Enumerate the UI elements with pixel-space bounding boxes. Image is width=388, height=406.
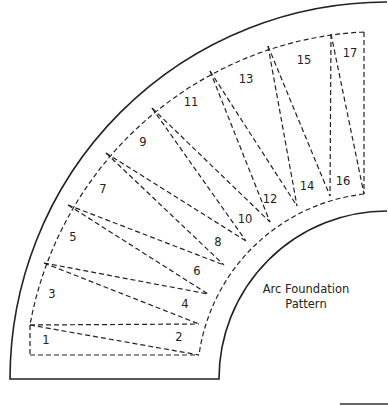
piece-label-9: 9 (139, 135, 146, 149)
seam-line (30, 324, 199, 325)
piece-label-12: 12 (263, 192, 278, 206)
seam-line (152, 108, 246, 241)
piece-label-17: 17 (343, 46, 358, 60)
seam-line (268, 46, 297, 206)
piece-label-2: 2 (175, 330, 182, 344)
piece-label-4: 4 (181, 297, 188, 311)
piece-label-7: 7 (99, 182, 106, 196)
piece-label-14: 14 (300, 179, 315, 193)
seam-line (152, 108, 270, 222)
seam-line (106, 153, 224, 265)
piece-label-13: 13 (239, 72, 254, 86)
piece-label-16: 16 (336, 174, 351, 188)
piece-label-5: 5 (69, 230, 76, 244)
seam-line (30, 325, 199, 355)
title-line-1: Arc Foundation (246, 282, 366, 297)
piece-label-10: 10 (238, 212, 253, 226)
piece-label-6: 6 (193, 264, 200, 278)
piece-label-3: 3 (48, 287, 55, 301)
seam-line (68, 205, 224, 265)
piece-label-15: 15 (297, 53, 312, 67)
seam-line (330, 34, 331, 196)
title-line-2: Pattern (246, 297, 366, 312)
piece-label-11: 11 (184, 95, 199, 109)
seam-line (210, 71, 297, 206)
pattern-title: Arc Foundation Pattern (246, 282, 366, 312)
piece-label-1: 1 (42, 333, 49, 347)
page-edge-line (340, 403, 388, 405)
seam-line (106, 153, 246, 241)
seam-line (210, 71, 270, 222)
piece-label-8: 8 (214, 235, 221, 249)
seam-line (44, 263, 199, 324)
seam-line (268, 46, 330, 196)
